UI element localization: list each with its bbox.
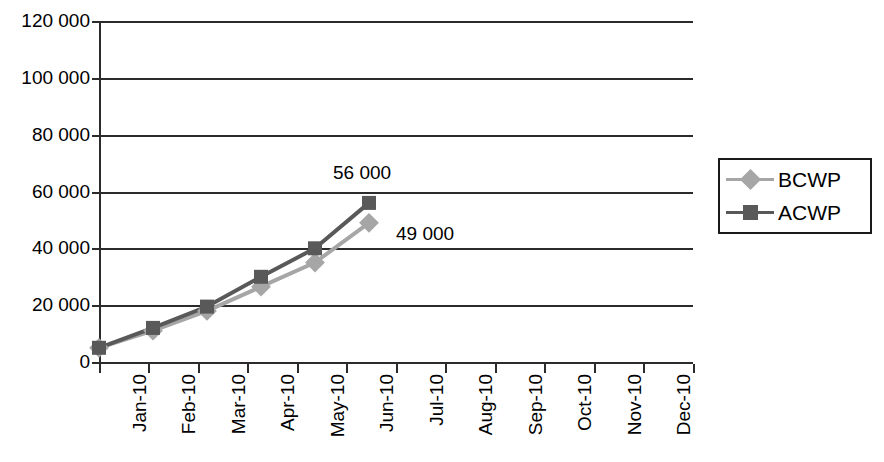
- data-label-acwp-jun: 56 000: [333, 163, 391, 182]
- legend-item-acwp[interactable]: ACWP: [720, 197, 870, 227]
- x-tick-label-apr: Apr-10: [278, 374, 297, 431]
- x-tick-label-jan: Jan-10: [130, 374, 149, 432]
- x-tick-label-mar: Mar-10: [229, 374, 248, 434]
- x-tick-label-dec: Dec-10: [674, 374, 693, 435]
- legend-key-acwp: [726, 202, 774, 222]
- legend-label-bcwp: BCWP: [778, 169, 841, 190]
- x-tick-label-jul: Jul-10: [427, 374, 446, 426]
- x-tick-label-nov: Nov-10: [625, 374, 644, 435]
- legend-label-acwp: ACWP: [778, 202, 841, 223]
- chart-legend: BCWP ACWP: [718, 158, 872, 234]
- data-label-bcwp-jun: 49 000: [396, 224, 454, 243]
- diamond-marker-icon: [740, 169, 761, 190]
- legend-item-bcwp[interactable]: BCWP: [720, 164, 870, 194]
- square-marker-icon: [743, 205, 758, 220]
- x-tick-label-may: May-10: [328, 374, 347, 437]
- chart-container: 120 000 100 000 80 000 60 000 40 000 20 …: [0, 0, 884, 462]
- x-tick-label-jun: Jun-10: [377, 374, 396, 432]
- legend-key-bcwp: [726, 169, 774, 189]
- x-tick-label-aug: Aug-10: [476, 374, 495, 435]
- x-tick-label-sep: Sep-10: [526, 374, 545, 435]
- x-tick-label-feb: Feb-10: [179, 374, 198, 434]
- x-tick-label-oct: Oct-10: [575, 374, 594, 431]
